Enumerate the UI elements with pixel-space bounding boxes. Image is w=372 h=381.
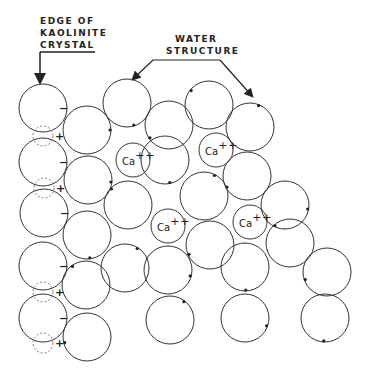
edge-label-line3: CRYSTAL [40, 39, 107, 51]
water-molecule [145, 101, 193, 149]
water-molecule [63, 313, 111, 361]
hydrogen-dot-icon [132, 123, 135, 126]
water-molecule [62, 261, 110, 309]
hydrogen-dot-icon [182, 300, 185, 303]
edge-label-line1: EDGE OF [40, 15, 107, 27]
calcium-ion-label: Ca++ [239, 211, 273, 229]
water-molecule [185, 81, 233, 129]
negative-charge-icon: − [59, 156, 68, 169]
calcium-ion-label: Ca++ [205, 139, 239, 157]
hydrogen-dot-icon [187, 253, 190, 256]
water-molecule [301, 294, 349, 342]
water-molecule [64, 156, 112, 204]
hydrogen-dot-icon [189, 274, 192, 277]
positive-charge-icon: + [56, 182, 65, 195]
water-molecule [180, 172, 228, 220]
hydrogen-dot-icon [257, 104, 260, 107]
hydrogen-dot-icon [168, 181, 171, 184]
hydrogen-dot-icon [265, 324, 268, 327]
crystal-edge-molecules: −−−−− [19, 84, 69, 342]
water-molecule [101, 244, 149, 292]
positive-charge-icon: + [55, 337, 64, 350]
hydrogen-dot-icon [148, 136, 151, 139]
water-molecule [186, 221, 234, 269]
adsorbed-site [34, 178, 54, 198]
water-molecule [63, 211, 111, 259]
water-molecule [63, 106, 111, 154]
hydrogen-dot-icon [110, 187, 113, 190]
edge-label: EDGE OF KAOLINITE CRYSTAL [40, 15, 107, 51]
hydrogen-dot-icon [213, 174, 216, 177]
kaolinite-water-diagram: −−−−− Ca++Ca++Ca++Ca++ ++++ EDGE OF KAOL… [0, 0, 372, 381]
negative-charge-icon: − [59, 102, 68, 115]
calcium-ion-label: Ca++ [122, 149, 156, 167]
hydrogen-dot-icon [304, 278, 307, 281]
hydrogen-dot-icon [244, 288, 247, 291]
diagram-drawing: −−−−− Ca++Ca++Ca++Ca++ ++++ [0, 0, 372, 381]
water-molecule [103, 79, 151, 127]
adsorbed-site [33, 333, 53, 353]
calcium-ion-label: Ca++ [157, 215, 191, 233]
edge-pointer-arrow [40, 52, 95, 82]
hydrogen-dot-icon [71, 265, 74, 268]
water-molecules [62, 79, 351, 361]
hydrogen-dot-icon [190, 89, 193, 92]
water-molecule [146, 296, 194, 344]
hydrogen-dot-icon [306, 207, 309, 210]
hydrogen-dot-icon [136, 247, 139, 250]
water-label-line2: STRUCTURE [166, 45, 240, 57]
hydrogen-dot-icon [273, 224, 276, 227]
negative-charge-icon: − [59, 312, 68, 325]
water-molecule [221, 294, 269, 342]
hydrogen-dot-icon [88, 256, 91, 259]
water-label: WATER STRUCTURE [166, 33, 240, 57]
adsorbed-site [33, 126, 53, 146]
adsorbed-site [33, 282, 53, 302]
hydrogen-dot-icon [109, 180, 112, 183]
hydrogen-dot-icon [108, 128, 111, 131]
water-molecule [144, 246, 192, 294]
negative-charge-icon: − [60, 207, 69, 220]
positive-charge-icon: + [55, 286, 64, 299]
water-label-line1: WATER [166, 33, 240, 45]
edge-label-line2: KAOLINITE [40, 27, 107, 39]
positive-charge-icon: + [55, 130, 64, 143]
water-molecule [221, 243, 269, 291]
water-molecule [303, 248, 351, 296]
hydrogen-dot-icon [322, 339, 325, 342]
